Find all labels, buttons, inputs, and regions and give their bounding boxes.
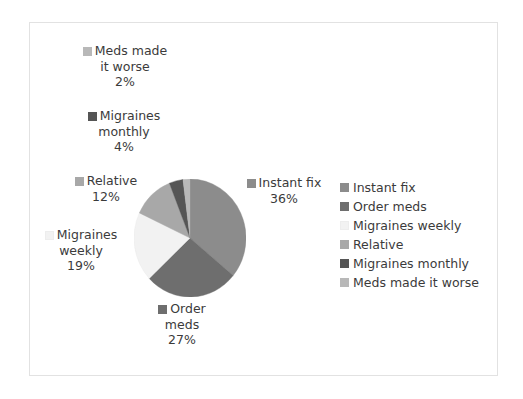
data-label-swatch-order-meds	[158, 305, 167, 314]
legend-item: Migraines monthly	[340, 254, 490, 273]
legend-item: Meds made it worse	[340, 273, 490, 292]
data-label-percent: 2%	[71, 74, 179, 90]
data-label-instant-fix: Instant fix 36%	[230, 175, 338, 206]
data-label-percent: 27%	[135, 332, 229, 348]
data-label-text-line1: Order	[170, 301, 206, 316]
chart-frame: Meds made it worse 2% Migraines monthly …	[29, 22, 498, 376]
legend-item-label: Order meds	[353, 199, 427, 214]
legend-item: Relative	[340, 235, 490, 254]
data-label-text-line1: Migraines	[100, 108, 161, 123]
data-label-order-meds: Order meds 27%	[135, 301, 229, 348]
data-label-meds-made-it-worse: Meds made it worse 2%	[71, 43, 179, 90]
data-label-percent: 36%	[230, 191, 338, 207]
data-label-swatch-migraines-weekly	[45, 231, 54, 240]
data-label-text-line2: weekly	[26, 243, 136, 259]
data-label-relative: Relative 12%	[52, 173, 160, 204]
legend-item-label: Migraines monthly	[353, 256, 469, 271]
data-label-swatch-instant-fix	[247, 179, 256, 188]
data-label-text-line1: Relative	[87, 173, 137, 188]
legend-item: Migraines weekly	[340, 216, 490, 235]
data-label-percent: 4%	[70, 139, 178, 155]
data-label-text-line1: Meds made	[95, 43, 167, 58]
legend-item-label: Relative	[353, 237, 403, 252]
legend-item-label: Meds made it worse	[353, 275, 479, 290]
data-label-swatch-relative	[75, 177, 84, 186]
data-label-percent: 19%	[26, 258, 136, 274]
data-label-text-line1: Migraines	[57, 227, 118, 242]
legend-swatch	[340, 278, 349, 287]
legend-item-label: Migraines weekly	[353, 218, 461, 233]
legend-swatch	[340, 202, 349, 211]
legend-swatch	[340, 240, 349, 249]
legend-swatch	[340, 183, 349, 192]
legend-item-label: Instant fix	[353, 180, 416, 195]
legend-swatch	[340, 259, 349, 268]
data-label-swatch-migraines-monthly	[88, 112, 97, 121]
data-label-text-line2: monthly	[70, 124, 178, 140]
chart-legend: Instant fixOrder medsMigraines weeklyRel…	[340, 178, 490, 292]
legend-item: Instant fix	[340, 178, 490, 197]
data-label-swatch-meds-made-it-worse	[83, 47, 92, 56]
data-label-migraines-monthly: Migraines monthly 4%	[70, 108, 178, 155]
legend-item: Order meds	[340, 197, 490, 216]
data-label-text-line2: meds	[135, 317, 229, 333]
data-label-text-line2: it worse	[71, 59, 179, 75]
data-label-percent: 12%	[52, 189, 160, 205]
data-label-text-line1: Instant fix	[259, 175, 322, 190]
data-label-migraines-weekly: Migraines weekly 19%	[26, 227, 136, 274]
legend-swatch	[340, 221, 349, 230]
